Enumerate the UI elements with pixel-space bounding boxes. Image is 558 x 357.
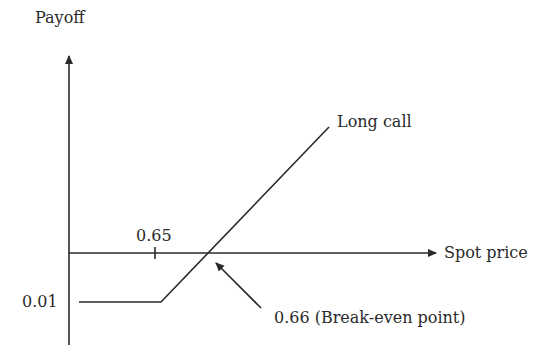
payoff-diagram: Payoff Spot price 0.65 0.01 Long call 0.… xyxy=(0,0,558,357)
break-even-annotation: 0.66 (Break-even point) xyxy=(274,308,466,327)
x-axis-label: Spot price xyxy=(444,243,528,262)
y-axis-label: Payoff xyxy=(35,8,86,27)
break-even-arrow xyxy=(216,263,261,308)
series-label: Long call xyxy=(337,112,412,131)
x-tick-label: 0.65 xyxy=(136,226,172,245)
long-call-payoff-line xyxy=(79,127,329,302)
y-tick-label: 0.01 xyxy=(22,292,58,311)
